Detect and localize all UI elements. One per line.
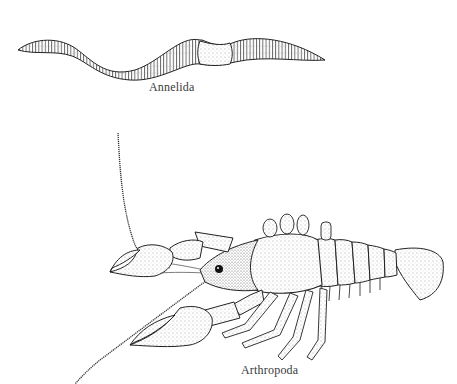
- crayfish-drawing: [75, 133, 443, 384]
- arthropoda-caption: Arthropoda: [241, 363, 298, 378]
- annelida-caption: Annelida: [149, 80, 195, 95]
- specimen-drawings: [0, 0, 457, 384]
- earthworm-drawing: [18, 39, 325, 80]
- illustration-figure: Annelida Arthropoda: [0, 0, 457, 384]
